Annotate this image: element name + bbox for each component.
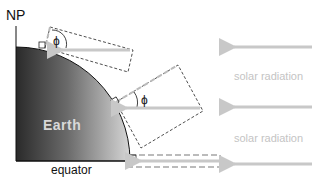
solar-radiation-label-1: solar radiation <box>234 70 303 82</box>
solar-radiation-label-2: solar radiation <box>234 132 303 144</box>
angle-phi-label-high: ϕ <box>53 34 60 48</box>
angle-arc-mid <box>134 92 138 107</box>
diagram-canvas <box>0 0 323 186</box>
equator-label: equator <box>51 163 92 177</box>
earth-label: Earth <box>43 117 81 133</box>
right-angle-marker-high <box>39 42 45 48</box>
tangent-line-high <box>45 27 50 48</box>
earth-insolation-diagram: NP Earth equator solar radiation solar r… <box>0 0 323 186</box>
north-pole-label: NP <box>6 7 25 23</box>
angle-phi-label-mid: ϕ <box>141 93 148 107</box>
